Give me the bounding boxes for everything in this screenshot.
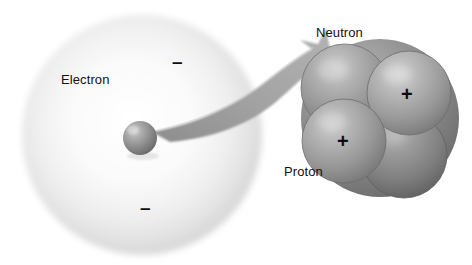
nucleus-cluster <box>301 39 459 198</box>
label-electron: Electron <box>61 72 110 87</box>
electron-charge-sign-bottom: – <box>140 198 151 217</box>
electron-charge-sign-top: – <box>172 52 183 71</box>
label-proton: Proton <box>284 164 323 179</box>
label-neutron: Neutron <box>316 25 363 40</box>
diagram-canvas <box>0 0 472 265</box>
atom-diagram: Electron Neutron Proton – – + + <box>0 0 472 265</box>
proton-charge-sign-bottom-left: + <box>337 131 349 151</box>
proton-charge-sign-top-right: + <box>401 84 413 104</box>
